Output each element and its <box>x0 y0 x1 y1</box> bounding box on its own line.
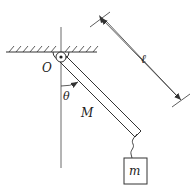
pivot-point <box>59 55 62 58</box>
pendulum-diagram: O θ M ℓ m <box>0 0 192 194</box>
pivot-label: O <box>42 61 52 75</box>
ceiling-hatching <box>9 46 98 52</box>
length-dimension <box>90 12 190 107</box>
hook <box>131 134 137 158</box>
rod-mass-label: M <box>80 106 94 120</box>
length-arrow-up <box>101 18 140 58</box>
angle-arc-icon <box>61 82 78 86</box>
length-label: ℓ <box>141 52 146 66</box>
angle-label: θ <box>63 90 70 103</box>
rod <box>60 56 141 137</box>
hanging-mass-label: m <box>129 164 140 178</box>
ceiling <box>6 46 98 52</box>
pivot <box>53 52 69 62</box>
length-arrow-down <box>140 58 181 100</box>
